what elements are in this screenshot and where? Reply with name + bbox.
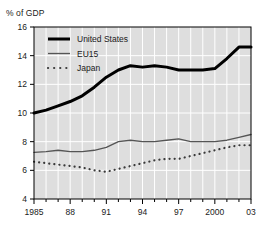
y-axis-labels: 46810121416 <box>18 22 28 204</box>
x-tick-label: 97 <box>174 207 184 217</box>
x-tick-label: 91 <box>102 207 112 217</box>
y-tick-label: 6 <box>22 165 27 175</box>
legend-label: Japan <box>77 63 100 73</box>
y-tick-label: 8 <box>22 137 27 147</box>
y-tick-label: 10 <box>18 108 28 118</box>
legend-label: EU15 <box>77 49 99 59</box>
x-tick-label: 2000 <box>205 207 224 217</box>
x-tick-label: 88 <box>65 207 75 217</box>
y-tick-label: 14 <box>18 51 28 61</box>
x-tick-label: 03 <box>246 207 256 217</box>
chart-figure: % of GDP 46810121416 198588919497200003 … <box>0 0 259 243</box>
y-tick-label: 16 <box>18 22 28 32</box>
y-tick-label: 12 <box>18 79 28 89</box>
legend-label: United States <box>77 34 128 44</box>
x-tick-label: 94 <box>138 207 148 217</box>
chart-canvas: 46810121416 198588919497200003 United St… <box>0 0 259 243</box>
x-tick-label: 1985 <box>25 207 44 217</box>
y-tick-label: 4 <box>22 194 27 204</box>
x-axis-labels: 198588919497200003 <box>25 207 256 217</box>
x-axis-ticks <box>34 199 251 204</box>
